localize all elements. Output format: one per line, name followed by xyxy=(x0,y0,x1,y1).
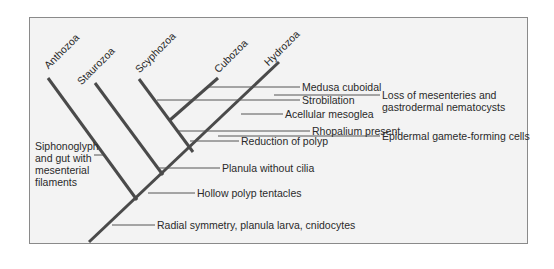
char-acellular-mesoglea: Acellular mesoglea xyxy=(285,108,374,120)
char-reduction-of-polyp: Reduction of polyp xyxy=(241,135,328,147)
char-hollow-polyp-tentacles: Hollow polyp tentacles xyxy=(197,187,301,199)
branch-hydrozoa-trunk xyxy=(89,62,279,242)
char-medusa-cuboidal: Medusa cuboidal xyxy=(302,81,381,93)
char-radial-symmetry: Radial symmetry, planula larva, cnidocyt… xyxy=(157,219,355,231)
char-epidermal-gamete-cells: Epidermal gamete-forming cells xyxy=(382,130,530,142)
branch-cubozoa xyxy=(170,78,218,120)
char-loss-of-mesenteries: Loss of mesenteries and gastrodermal nem… xyxy=(382,89,505,113)
char-strobilation: Strobilation xyxy=(302,94,355,106)
char-planula-without-cilia: Planula without cilia xyxy=(222,162,314,174)
char-siphonoglyph: Siphonoglyph and gut with mesenterial fi… xyxy=(35,140,99,188)
branch-scyphozoa xyxy=(139,79,193,152)
